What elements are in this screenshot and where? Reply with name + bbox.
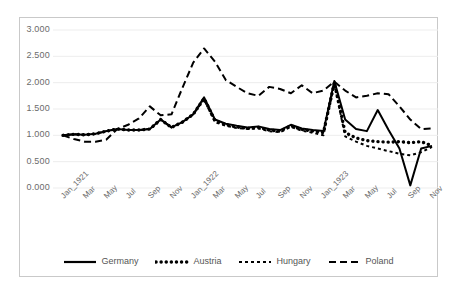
legend-marker-germany [63,257,97,266]
y-axis-tick-label: 0.000 [10,182,50,192]
y-axis-tick-label: 2.500 [10,50,50,60]
legend-label: Austria [193,256,221,266]
legend-item-hungary[interactable]: Hungary [238,256,310,266]
series-line-germany [63,81,432,185]
legend-item-germany[interactable]: Germany [63,256,138,266]
y-axis-tick-label: 0.500 [10,156,50,166]
chart-legend: GermanyAustriaHungaryPoland [19,250,438,272]
legend-label: Germany [101,256,138,266]
plot-area: 3.0002.5002.0001.5001.0000.5000.000Jan_1… [0,0,457,289]
chart-svg [0,0,457,289]
legend-marker-austria [155,257,189,266]
legend-item-poland[interactable]: Poland [328,256,394,266]
legend-label: Poland [366,256,394,266]
y-axis-tick-label: 2.000 [10,77,50,87]
legend-item-austria[interactable]: Austria [155,256,221,266]
y-axis-tick-label: 1.000 [10,129,50,139]
legend-label: Hungary [276,256,310,266]
y-axis-tick-label: 3.000 [10,24,50,34]
y-axis-tick-label: 1.500 [10,103,50,113]
chart-container: 3.0002.5002.0001.5001.0000.5000.000Jan_1… [0,0,457,289]
legend-marker-poland [328,257,362,266]
legend-marker-hungary [238,257,272,266]
